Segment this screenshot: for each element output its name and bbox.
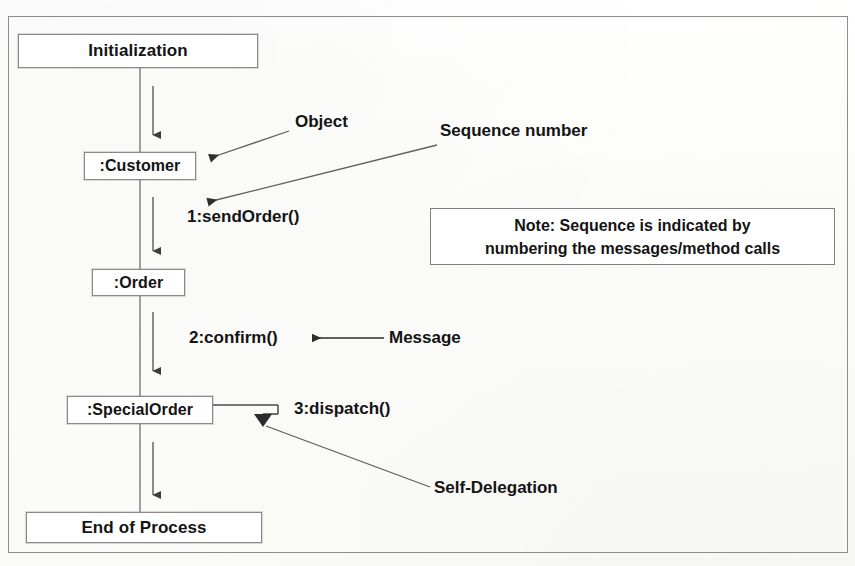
message-label-sendorder: 1:sendOrder() (187, 207, 299, 227)
node-box-order[interactable]: :Order (92, 269, 185, 296)
annotation-label-sequence-number: Sequence number (440, 121, 587, 141)
node-label-end-of-process: End of Process (81, 518, 206, 538)
node-label-order: :Order (114, 274, 164, 292)
node-box-end-of-process[interactable]: End of Process (26, 512, 262, 543)
note-line-1: Note: Sequence is indicated by (514, 214, 751, 237)
node-box-specialorder[interactable]: :SpecialOrder (67, 396, 213, 424)
node-label-customer: :Customer (100, 157, 181, 175)
annotation-label-message: Message (389, 328, 461, 348)
annotation-label-object: Object (295, 112, 348, 132)
diagram-page: Initialization :Customer :Order :Special… (0, 0, 855, 566)
node-label-initialization: Initialization (88, 41, 188, 61)
message-label-dispatch: 3:dispatch() (294, 399, 390, 419)
sequence-note-box: Note: Sequence is indicated by numbering… (430, 208, 835, 265)
message-label-confirm: 2:confirm() (189, 328, 278, 348)
annotation-label-self-delegation: Self-Delegation (434, 478, 558, 498)
node-label-specialorder: :SpecialOrder (87, 401, 193, 419)
note-line-2: numbering the messages/method calls (485, 237, 780, 260)
node-box-initialization[interactable]: Initialization (18, 34, 258, 68)
node-box-customer[interactable]: :Customer (84, 152, 196, 180)
